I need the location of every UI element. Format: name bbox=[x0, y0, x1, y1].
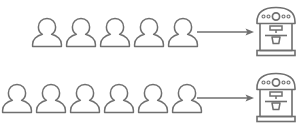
people-group-bottom bbox=[0, 66, 204, 132]
espresso-machine-icon bbox=[253, 71, 299, 125]
person-icon bbox=[166, 13, 200, 53]
people-group-top bbox=[30, 0, 200, 66]
person-icon bbox=[30, 13, 64, 53]
diagram-row-bottom bbox=[0, 66, 302, 132]
person-icon bbox=[136, 79, 170, 119]
espresso-machine-icon bbox=[253, 5, 299, 59]
person-icon bbox=[0, 79, 34, 119]
person-icon bbox=[132, 13, 166, 53]
person-icon bbox=[68, 79, 102, 119]
person-icon bbox=[102, 79, 136, 119]
diagram-canvas bbox=[0, 0, 302, 132]
arrow-right-icon bbox=[196, 91, 256, 105]
arrow-right-icon bbox=[196, 25, 256, 39]
person-icon bbox=[64, 13, 98, 53]
diagram-row-top bbox=[0, 0, 302, 66]
person-icon bbox=[34, 79, 68, 119]
person-icon bbox=[98, 13, 132, 53]
